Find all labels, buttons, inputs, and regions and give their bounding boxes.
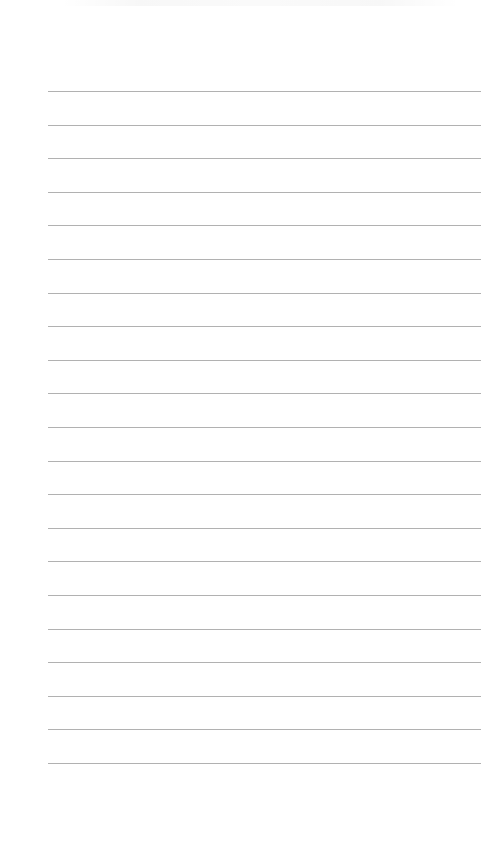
ruled-line bbox=[48, 91, 481, 92]
ruled-line bbox=[48, 225, 481, 226]
ruled-line bbox=[48, 729, 481, 730]
ruled-line bbox=[48, 427, 481, 428]
ruled-line bbox=[48, 125, 481, 126]
ruled-line bbox=[48, 561, 481, 562]
ruled-line bbox=[48, 192, 481, 193]
lined-paper-page bbox=[0, 0, 503, 853]
ruled-line bbox=[48, 629, 481, 630]
ruled-line bbox=[48, 360, 481, 361]
ruled-line bbox=[48, 662, 481, 663]
ruled-line bbox=[48, 595, 481, 596]
ruled-line bbox=[48, 326, 481, 327]
ruled-line bbox=[48, 528, 481, 529]
ruled-line bbox=[48, 696, 481, 697]
ruled-line bbox=[48, 393, 481, 394]
faint-bleed-through bbox=[60, 0, 460, 6]
ruled-line bbox=[48, 461, 481, 462]
ruled-line bbox=[48, 763, 481, 764]
ruled-line bbox=[48, 158, 481, 159]
ruled-line bbox=[48, 494, 481, 495]
ruled-line bbox=[48, 259, 481, 260]
ruled-line bbox=[48, 293, 481, 294]
